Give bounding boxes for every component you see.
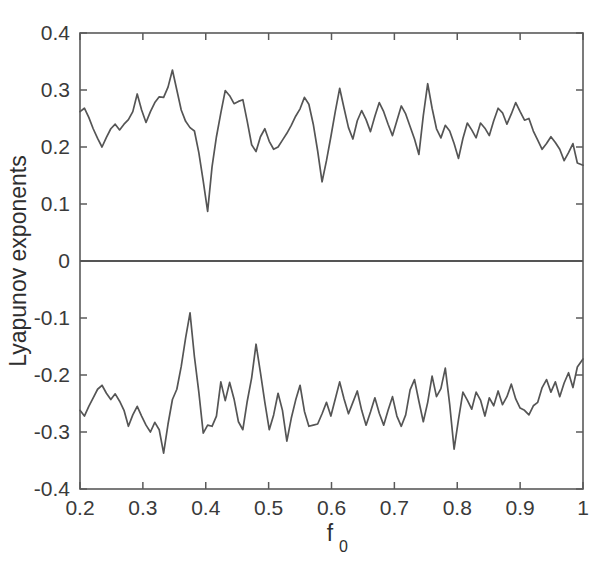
y-tick-label: 0.1 bbox=[41, 192, 70, 215]
series-line-2 bbox=[80, 313, 583, 453]
y-tick-label: 0.4 bbox=[41, 21, 71, 44]
data-series-group bbox=[80, 70, 583, 453]
x-tick-label: 0.6 bbox=[317, 496, 346, 519]
figure-container: 0.20.30.40.50.60.70.80.91 -0.4-0.3-0.2-0… bbox=[0, 0, 606, 567]
x-axis-title: f 0 bbox=[327, 520, 348, 555]
x-tick-label: 0.5 bbox=[254, 496, 283, 519]
lyapunov-exponents-chart: 0.20.30.40.50.60.70.80.91 -0.4-0.3-0.2-0… bbox=[0, 0, 606, 567]
y-tick-label: -0.3 bbox=[34, 420, 70, 443]
x-axis-tick-labels: 0.20.30.40.50.60.70.80.91 bbox=[65, 496, 588, 519]
y-axis-title: Lyapunov exponents bbox=[5, 155, 31, 366]
y-tick-label: -0.4 bbox=[34, 477, 71, 500]
x-axis-title-base: f bbox=[327, 520, 334, 546]
x-tick-label: 0.7 bbox=[380, 496, 409, 519]
x-tick-label: 0.8 bbox=[443, 496, 472, 519]
x-tick-label: 0.4 bbox=[191, 496, 221, 519]
y-tick-label: 0.2 bbox=[41, 135, 70, 158]
x-axis-title-subscript: 0 bbox=[339, 538, 348, 555]
y-tick-label: 0.3 bbox=[41, 78, 70, 101]
y-axis-tick-labels: -0.4-0.3-0.2-0.100.10.20.30.4 bbox=[34, 21, 71, 500]
x-tick-label: 0.3 bbox=[128, 496, 157, 519]
y-tick-label: -0.2 bbox=[34, 363, 70, 386]
x-tick-label: 0.9 bbox=[506, 496, 535, 519]
y-tick-label: -0.1 bbox=[34, 306, 70, 329]
x-tick-label: 1 bbox=[577, 496, 589, 519]
y-tick-label: 0 bbox=[58, 249, 70, 272]
series-line-0 bbox=[80, 70, 583, 211]
